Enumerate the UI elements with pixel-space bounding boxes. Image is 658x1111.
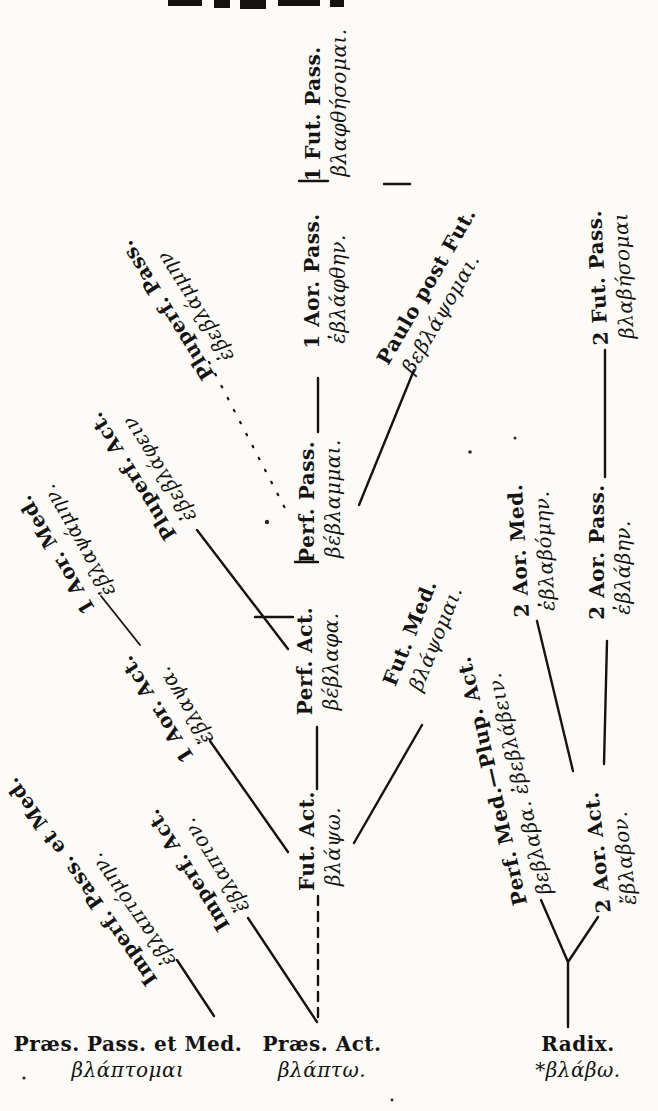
header-cutoff-fragment <box>168 0 344 9</box>
node-greek: *βλάβω. <box>535 1058 620 1084</box>
node-greek: βλάπτομαι <box>14 1058 242 1084</box>
node-praes-pass-med: Præs. Pass. et Med. βλάπτομαι <box>14 1032 242 1083</box>
node-fut-act: Fut. Act. βλάψω. <box>295 791 346 891</box>
node-label: 2 Aor. Pass. <box>585 484 611 619</box>
edge-perfpass-pluperfpass <box>209 362 288 514</box>
node-perf-pass: Perf. Pass. βέβλαμμαι. <box>295 439 346 563</box>
node-praes-act: Præs. Act. βλάπτω. <box>262 1032 381 1083</box>
node-2-fut-pass: 2 Fut. Pass. βλαβήσομαι <box>582 208 640 346</box>
node-greek: βέβλαμμαι. <box>321 439 347 563</box>
node-greek: βέβλαφα. <box>319 607 345 715</box>
node-label: Fut. Act. <box>295 791 321 891</box>
node-greek: βλαφθήσομαι. <box>327 28 353 181</box>
node-label: Perf. Pass. <box>295 439 321 563</box>
scan-specks <box>22 437 516 1102</box>
edge-1aoract-1aormed <box>101 596 140 645</box>
node-label: 1 Aor. Pass. <box>300 213 326 348</box>
edge-2aoract-2aorpass <box>604 641 607 764</box>
edge-praesact-imperfact <box>248 918 317 1022</box>
edge-perfact-pluperfact <box>197 530 288 649</box>
node-greek: βλάψω. <box>321 791 347 891</box>
edge-2aoract-2aormed <box>537 621 573 771</box>
node-label: Radix. <box>535 1032 620 1058</box>
node-greek: ἐβλάφθην. <box>326 213 352 348</box>
edge-radix-2aoract <box>568 917 598 962</box>
node-label: Præs. Act. <box>262 1032 381 1058</box>
edge-praespass-imperfpass <box>177 960 214 1016</box>
edge-radix-perfmed <box>541 900 568 962</box>
node-2-aor-med: 2 Aor. Med. ἐβλαβόμην. <box>503 482 561 618</box>
node-radix: Radix. *βλάβω. <box>535 1032 620 1083</box>
edge-futact-1aoract <box>210 741 288 852</box>
scanned-book-page: 1 Fut. Pass. βλαφθήσομαι. 1 Aor. Pass. ἐ… <box>0 0 658 1111</box>
node-2-aor-pass: 2 Aor. Pass. ἐβλάβην. <box>585 484 636 619</box>
edge-perfpass-paulopostfut <box>359 370 414 505</box>
edge-futact-futmed <box>354 725 422 843</box>
node-greek: ἐβλάβην. <box>611 484 637 619</box>
node-greek: βλάπτω. <box>262 1058 381 1084</box>
node-label: Præs. Pass. et Med. <box>14 1032 242 1058</box>
node-1-aor-pass: 1 Aor. Pass. ἐβλάφθην. <box>300 213 351 348</box>
node-label: Perf. Act. <box>293 607 319 715</box>
node-label: 1 Fut. Pass. <box>301 28 327 181</box>
node-1-fut-pass: 1 Fut. Pass. βλαφθήσομαι. <box>301 28 352 181</box>
node-perf-act: Perf. Act. βέβλαφα. <box>293 607 344 715</box>
